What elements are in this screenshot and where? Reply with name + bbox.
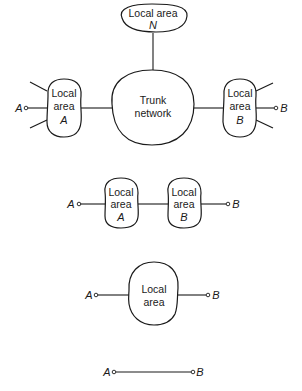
local-area-b-id: B (236, 114, 243, 126)
trunk-network-label-2: network (135, 107, 173, 119)
terminal-a-label: A (66, 198, 74, 210)
local-area-a-label-2: area (110, 198, 131, 210)
local-area-a-label-1: Local (51, 87, 76, 99)
terminal-b-label: B (196, 366, 203, 378)
local-area-b-label-1: Local (227, 87, 252, 99)
trunk-network-label-1: Trunk (140, 94, 167, 106)
terminal-b-dot (206, 293, 210, 297)
terminal-b-dot (274, 106, 278, 110)
terminal-b-label: B (212, 289, 219, 301)
local-area-a-label-2: area (53, 100, 74, 112)
panel-single-local-area: A B Local area (84, 262, 219, 325)
terminal-a-dot (24, 106, 28, 110)
local-area-label-1: Local (141, 283, 166, 295)
local-area-n-label: Local area (128, 7, 177, 19)
local-area-b-label-1: Local (171, 186, 196, 198)
terminal-b-dot (226, 202, 230, 206)
terminal-b-label: B (232, 198, 239, 210)
branch-line (256, 120, 273, 128)
local-area-a-id: A (116, 211, 124, 223)
branch-line (256, 83, 273, 91)
terminal-b-label: B (280, 102, 287, 114)
local-area-n-id: N (149, 19, 157, 31)
local-area-b-label-2: area (229, 100, 250, 112)
branch-line (30, 120, 47, 128)
branch-line (30, 82, 47, 91)
local-area-a-label-1: Local (108, 186, 133, 198)
terminal-a-label: A (84, 289, 92, 301)
local-area-b-id: B (180, 211, 187, 223)
terminal-a-dot (112, 370, 116, 374)
terminal-a-dot (77, 202, 81, 206)
local-area-label-2: area (143, 296, 164, 308)
panel-trunk-network: Local area N Trunk network A Local area … (14, 4, 287, 145)
terminal-b-dot (191, 370, 195, 374)
panel-two-local-areas: A B Local area A Local area B (66, 178, 239, 228)
local-area-b-label-2: area (173, 198, 194, 210)
terminal-a-label: A (14, 102, 22, 114)
panel-direct-connection: A B (102, 366, 203, 378)
network-hierarchy-diagram: Local area N Trunk network A Local area … (0, 0, 302, 391)
terminal-a-dot (94, 293, 98, 297)
terminal-a-label: A (102, 366, 110, 378)
local-area-a-id: A (59, 114, 67, 126)
